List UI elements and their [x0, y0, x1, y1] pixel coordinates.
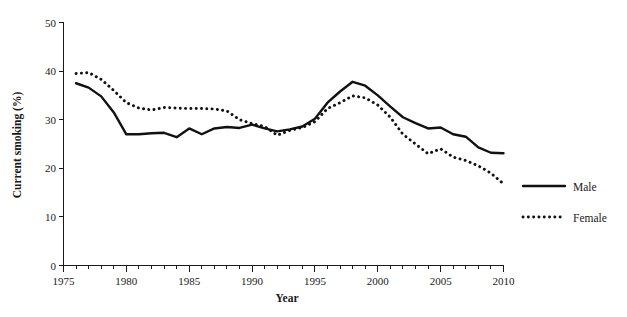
chart-container: 01020304050 1975198019851990199520002005…: [0, 0, 627, 317]
data-series-group: [76, 73, 503, 184]
legend-label-male: Male: [573, 181, 597, 193]
y-tick-label: 50: [45, 17, 57, 29]
x-tick-label: 1980: [115, 275, 138, 287]
x-tick-label: 2005: [430, 275, 453, 287]
line-chart: 01020304050 1975198019851990199520002005…: [0, 0, 627, 317]
y-tick-label: 20: [45, 162, 57, 174]
legend-label-female: Female: [573, 212, 607, 224]
x-tick-label: 1975: [53, 275, 76, 287]
y-tick-label: 10: [45, 211, 57, 223]
x-axis: 19751980198519901995200020052010: [53, 266, 516, 287]
y-tick-label: 0: [51, 260, 57, 272]
y-axis-title: Current smoking (%): [11, 92, 24, 199]
x-axis-major-tick-marks: [64, 266, 504, 273]
legend: MaleFemale: [523, 181, 607, 224]
y-axis: 01020304050: [45, 17, 64, 272]
x-tick-label: 1995: [304, 275, 327, 287]
x-axis-tick-labels: 19751980198519901995200020052010: [53, 275, 516, 287]
x-axis-title: Year: [276, 292, 299, 304]
x-tick-label: 2000: [367, 275, 390, 287]
series-line-male: [76, 82, 503, 153]
y-axis-tick-marks: [59, 23, 64, 266]
x-tick-label: 1990: [241, 275, 264, 287]
x-tick-label: 2010: [493, 275, 516, 287]
y-axis-tick-labels: 01020304050: [45, 17, 57, 272]
y-tick-label: 30: [45, 114, 57, 126]
y-tick-label: 40: [45, 65, 57, 77]
x-tick-label: 1985: [178, 275, 201, 287]
